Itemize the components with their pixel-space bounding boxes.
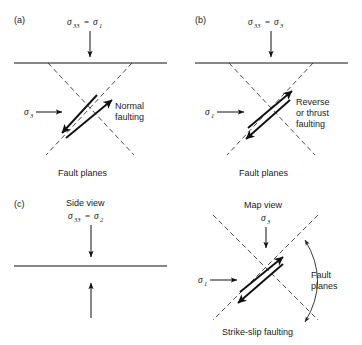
panel-c: (c) Side view σ 33 = σ 2 [14,198,167,318]
sigma-subscript-2: 1 [99,22,102,29]
panel-a-fault-type-line1: Normal [115,101,144,111]
panel-c-label: (c) [14,199,25,209]
sigma-subscript: 33 [253,22,261,29]
panel-d-caption: Strike-slip faulting [222,327,293,337]
sigma-symbol: σ [24,107,29,117]
panel-d-horizontal-stress-label: σ 1 [198,275,207,287]
panel-d-slip-arrow-up [240,257,283,292]
panel-b-fault-type-line1: Reverse [296,97,330,107]
panel-d-slip-arrow-down [238,264,283,303]
sigma-subscript-2: 2 [100,216,104,223]
sigma-subscript-2: 3 [279,22,284,29]
equals-sign: = [265,17,270,27]
sigma-symbol-2: σ [274,17,279,27]
equals-sign: = [84,17,89,27]
sigma-symbol: σ [261,213,266,223]
sigma-subscript: 33 [72,22,80,29]
panel-c-view-label: Side view [66,198,105,208]
panel-b-vertical-stress-label: σ 33 = σ 3 [248,17,284,29]
sigma-symbol-2: σ [94,211,99,221]
sigma-symbol: σ [67,17,72,27]
sigma-symbol-2: σ [93,17,98,27]
panel-b-fault-type-line2: or thrust [296,108,330,118]
panel-d-fault-planes-line1: Fault [311,270,332,280]
sigma-subscript: 1 [211,112,214,119]
sigma-subscript: 33 [73,216,81,223]
panel-a-horizontal-stress-label: σ 3 [24,107,34,119]
sigma-subscript: 3 [266,218,271,225]
panel-b-slip-arrow-down [246,100,290,139]
panel-b: (b) σ 33 = σ 3 σ 1 Reverse or thrust [195,15,348,178]
sigma-symbol: σ [205,107,210,117]
panel-d-fault-planes-line2: planes [311,281,338,291]
panel-a-label: (a) [14,15,25,25]
panel-a-slip-arrow-up [66,100,112,138]
panel-b-horizontal-stress-label: σ 1 [205,107,214,119]
panel-a: (a) σ 33 = σ 1 σ 3 [14,15,167,178]
panel-a-vertical-stress-label: σ 33 = σ 1 [67,17,102,29]
sigma-subscript: 1 [204,280,207,287]
faulting-stress-figure: (a) σ 33 = σ 1 σ 3 [0,0,362,345]
sigma-subscript: 3 [29,112,34,119]
panel-a-fault-type-line2: faulting [115,112,144,122]
panel-b-slip-arrow-up [248,91,292,128]
panel-c-vertical-stress-label: σ 33 = σ 2 [68,211,104,223]
panel-b-fault-type-line3: faulting [296,119,325,129]
sigma-symbol: σ [68,211,73,221]
diagram-canvas: (a) σ 33 = σ 1 σ 3 [0,0,362,345]
panel-d-view-label: Map view [244,200,283,210]
panel-b-label: (b) [195,15,206,25]
sigma-symbol: σ [198,275,203,285]
equals-sign: = [85,211,90,221]
panel-d: Map view σ 3 σ 1 Fault planes Strike- [198,200,338,337]
sigma-symbol: σ [248,17,253,27]
panel-b-fault-planes-label: Fault planes [239,168,289,178]
panel-d-vertical-stress-label: σ 3 [261,213,271,225]
panel-a-fault-planes-label: Fault planes [58,168,108,178]
